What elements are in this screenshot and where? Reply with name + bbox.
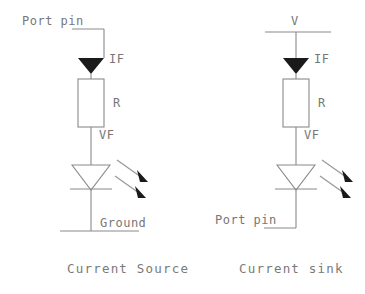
left-emission-arrowhead-2 bbox=[135, 186, 146, 198]
left-emission-ray-2 bbox=[115, 176, 139, 193]
left-resistor-label: R bbox=[113, 96, 121, 110]
right-resistor-label: R bbox=[318, 96, 326, 110]
circuit-diagram-canvas: Port pin IF R VF Ground Current Source V… bbox=[0, 0, 365, 294]
right-emission-arrowhead-1 bbox=[342, 170, 353, 182]
right-current-label-if: IF bbox=[314, 52, 329, 66]
left-resistor-body bbox=[78, 79, 104, 127]
circuit-graphics bbox=[0, 0, 365, 294]
right-emission-ray-2 bbox=[320, 176, 344, 193]
left-current-arrow-if bbox=[78, 58, 104, 74]
left-bottom-label-ground: Ground bbox=[100, 216, 146, 230]
left-current-label-if: IF bbox=[109, 52, 124, 66]
left-top-label-port-pin: Port pin bbox=[22, 14, 84, 28]
left-forward-voltage-label-vf: VF bbox=[99, 128, 114, 142]
right-current-arrow-if bbox=[283, 58, 309, 74]
right-top-label-v: V bbox=[291, 14, 299, 28]
left-emission-arrowhead-1 bbox=[137, 170, 148, 182]
right-caption-current-sink: Current sink bbox=[239, 261, 344, 276]
right-forward-voltage-label-vf: VF bbox=[304, 128, 319, 142]
left-caption-current-source: Current Source bbox=[67, 261, 189, 276]
right-bottom-label-port-pin: Port pin bbox=[215, 213, 277, 227]
right-emission-arrowhead-2 bbox=[340, 186, 351, 198]
right-resistor-body bbox=[283, 79, 309, 127]
left-led-triangle bbox=[72, 165, 110, 190]
right-led-triangle bbox=[277, 165, 315, 190]
left-emission-ray-1 bbox=[117, 160, 141, 177]
right-emission-ray-1 bbox=[322, 160, 346, 177]
